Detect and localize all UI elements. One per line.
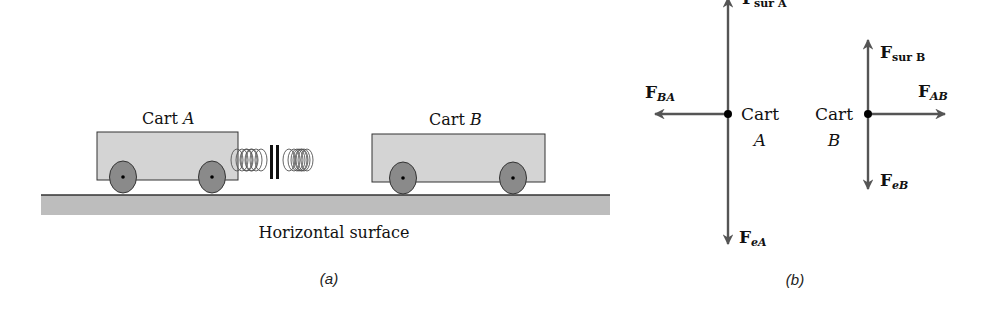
wheel-icon: [199, 161, 226, 193]
force-label-sur-b: Fsur B: [880, 42, 925, 64]
cart-a: [97, 132, 238, 193]
force-label-ea: FeA: [739, 227, 767, 249]
cart-a-fbd-var: A: [752, 130, 766, 150]
cart-b-fbd-var: B: [827, 130, 841, 150]
cart-a-label: Cart A: [142, 109, 195, 128]
cart-b: [372, 134, 545, 194]
force-label-sur-a: Fsur A: [742, 0, 787, 10]
free-body-cart-b: Fsur B FAB FeB Cart B: [815, 40, 948, 192]
panel-b-caption: (b): [786, 271, 804, 288]
bumper-plate: [270, 145, 273, 179]
bumper-plate: [276, 145, 279, 179]
free-body-cart-a: Fsur A FBA FeA Cart A: [645, 0, 787, 249]
cart-a-fbd-label: Cart: [741, 104, 779, 124]
carts-diagram: Cart A: [0, 0, 1001, 322]
panel-b: Fsur A FBA FeA Cart A Fsur B FAB: [645, 0, 948, 288]
panel-a: Cart A: [41, 109, 610, 287]
cart-b-point: [864, 110, 872, 118]
wheel-icon: [110, 161, 137, 193]
wheel-icon: [390, 162, 417, 194]
cart-b-label: Cart B: [429, 110, 482, 129]
force-label-ab: FAB: [918, 81, 948, 103]
force-label-eb: FeB: [880, 170, 908, 192]
wheel-icon: [500, 162, 527, 194]
cart-b-fbd-label: Cart: [815, 104, 853, 124]
surface-label: Horizontal surface: [259, 223, 410, 242]
panel-a-caption: (a): [320, 270, 338, 287]
horizontal-surface: [41, 195, 610, 215]
force-label-ba: FBA: [645, 82, 675, 104]
cart-a-point: [724, 110, 732, 118]
